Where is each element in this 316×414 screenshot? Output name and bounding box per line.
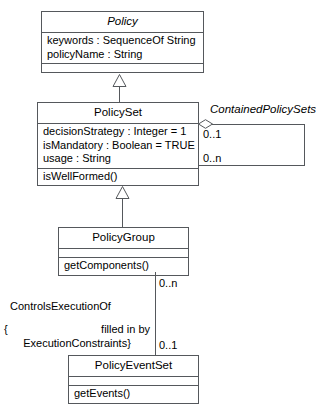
association-line-contained-top — [212, 124, 305, 125]
association-label-controls-execution-of: ControlsExecutionOf — [10, 300, 111, 313]
operations-compartment-policygroup: getComponents() — [59, 257, 188, 275]
multiplicity-controls-target: 0..1 — [159, 339, 177, 352]
operation-item: isWellFormed() — [43, 170, 193, 184]
operations-compartment-policyeventset: getEvents() — [69, 385, 198, 403]
operation-item: getEvents() — [74, 387, 193, 401]
association-line-contained-right — [304, 124, 305, 165]
attribute-item: keywords : SequenceOf String — [47, 34, 198, 48]
constraint-open-brace: { — [4, 322, 8, 336]
class-box-policyset[interactable]: PolicySet decisionStrategy : Integer = 1… — [37, 102, 199, 186]
attributes-compartment-policyeventset — [69, 376, 198, 385]
constraint-text-line1: filled in by — [101, 322, 150, 336]
association-line-contained-bottom — [199, 165, 305, 166]
association-label-contained-policysets: ContainedPolicySets — [210, 103, 316, 116]
attribute-item: policyName : String — [47, 48, 198, 62]
uml-class-diagram: Policy keywords : SequenceOf String poli… — [0, 0, 316, 414]
generalization-line-policygroup-to-policyset — [122, 198, 123, 227]
class-name-policy: Policy — [42, 12, 203, 32]
attributes-compartment-policyset: decisionStrategy : Integer = 1 isMandato… — [38, 123, 198, 168]
multiplicity-controls-source: 0..n — [159, 277, 177, 290]
attribute-item: usage : String — [43, 152, 193, 166]
class-box-policyeventset[interactable]: PolicyEventSet getEvents() — [68, 355, 199, 404]
multiplicity-contained-source: 0..1 — [203, 128, 221, 141]
attribute-item: decisionStrategy : Integer = 1 — [43, 125, 193, 139]
class-name-policyeventset: PolicyEventSet — [69, 356, 198, 376]
class-name-policyset: PolicySet — [38, 103, 198, 123]
class-box-policygroup[interactable]: PolicyGroup getComponents() — [58, 227, 189, 276]
attributes-compartment-policygroup — [59, 248, 188, 257]
operations-compartment-policy — [42, 63, 203, 72]
multiplicity-contained-target: 0..n — [203, 152, 221, 165]
class-name-policygroup: PolicyGroup — [59, 228, 188, 248]
class-box-policy[interactable]: Policy keywords : SequenceOf String poli… — [41, 11, 204, 73]
constraint-note-execution-constraints: { filled in by ExecutionConstraints} — [4, 322, 150, 350]
constraint-text-line2: ExecutionConstraints} — [4, 336, 150, 350]
attribute-item: isMandatory : Boolean = TRUE — [43, 139, 193, 153]
generalization-line-policyset-to-policy — [119, 86, 120, 103]
association-line-controls-execution-of — [155, 272, 156, 355]
attributes-compartment-policy: keywords : SequenceOf String policyName … — [42, 32, 203, 63]
operations-compartment-policyset: isWellFormed() — [38, 168, 198, 186]
operation-item: getComponents() — [64, 259, 183, 273]
